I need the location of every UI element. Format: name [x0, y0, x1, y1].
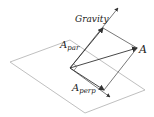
a-par-label: Apar	[59, 39, 80, 52]
a-perp-label-base: A	[71, 82, 79, 93]
vector-decomposition-diagram: Gravity A Apar Aperp	[0, 0, 154, 117]
a-vector	[70, 48, 137, 68]
guide-line-perp-to-a	[104, 48, 137, 90]
gravity-label: Gravity	[75, 14, 109, 24]
right-angle-marker	[74, 64, 78, 71]
a-label: A	[138, 43, 147, 56]
guide-line-par-to-a	[103, 28, 137, 48]
a-par-label-sub: par	[67, 44, 80, 52]
a-perp-label-sub: perp	[79, 87, 96, 95]
a-par-label-base: A	[59, 39, 67, 50]
